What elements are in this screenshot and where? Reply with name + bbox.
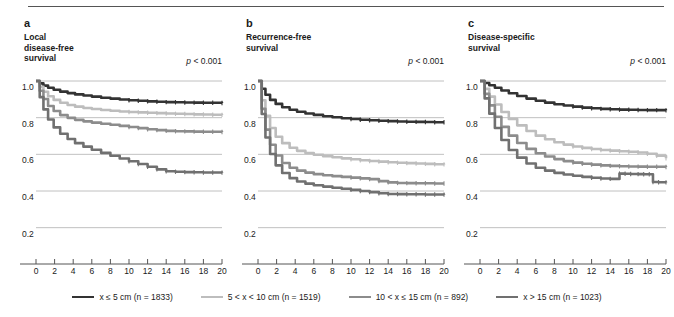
svg-text:6: 6 bbox=[89, 266, 94, 276]
svg-text:0.8: 0.8 bbox=[244, 119, 256, 129]
svg-text:0.6: 0.6 bbox=[244, 155, 256, 165]
svg-text:1.0: 1.0 bbox=[466, 82, 478, 92]
svg-text:Time (years): Time (years) bbox=[104, 279, 154, 280]
svg-text:18: 18 bbox=[643, 266, 653, 276]
legend-item-label: x > 15 cm (n = 1023) bbox=[523, 292, 601, 302]
legend-item-label: 5 < x < 10 cm (n = 1519) bbox=[228, 292, 321, 302]
svg-text:2: 2 bbox=[274, 266, 279, 276]
legend-swatch-icon bbox=[496, 296, 518, 299]
svg-text:0.4: 0.4 bbox=[244, 192, 256, 202]
svg-text:4: 4 bbox=[515, 266, 520, 276]
svg-text:10: 10 bbox=[568, 266, 578, 276]
svg-text:0.4: 0.4 bbox=[22, 192, 34, 202]
svg-text:0.4: 0.4 bbox=[466, 192, 478, 202]
svg-text:10: 10 bbox=[124, 266, 134, 276]
svg-text:2: 2 bbox=[496, 266, 501, 276]
svg-text:14: 14 bbox=[383, 266, 393, 276]
svg-text:8: 8 bbox=[330, 266, 335, 276]
top-divider bbox=[28, 6, 664, 7]
panel-a: a Local disease-free survival p < 0.001 … bbox=[6, 18, 228, 280]
panel-a-plot: 0.20.40.60.81.002468101214161820Time (ye… bbox=[6, 18, 228, 280]
legend-item-label: x ≤ 5 cm (n = 1833) bbox=[99, 292, 172, 302]
svg-text:8: 8 bbox=[552, 266, 557, 276]
legend-item-label: 10 < x ≤ 15 cm (n = 892) bbox=[376, 292, 469, 302]
series-legend: x ≤ 5 cm (n = 1833) 5 < x < 10 cm (n = 1… bbox=[0, 286, 674, 308]
panel-c: c Disease-specific survival p < 0.001 0.… bbox=[450, 18, 672, 280]
svg-text:1.0: 1.0 bbox=[244, 82, 256, 92]
svg-text:16: 16 bbox=[180, 266, 190, 276]
svg-text:Time (years): Time (years) bbox=[326, 279, 376, 280]
svg-text:0.6: 0.6 bbox=[22, 155, 34, 165]
svg-text:0: 0 bbox=[34, 266, 39, 276]
svg-text:6: 6 bbox=[533, 266, 538, 276]
svg-text:16: 16 bbox=[624, 266, 634, 276]
panel-b: b Recurrence-free survival p < 0.001 0.2… bbox=[228, 18, 450, 280]
legend-item: x > 15 cm (n = 1023) bbox=[496, 292, 601, 302]
svg-text:0.2: 0.2 bbox=[22, 229, 34, 239]
svg-text:12: 12 bbox=[587, 266, 597, 276]
svg-text:4: 4 bbox=[293, 266, 298, 276]
svg-text:8: 8 bbox=[108, 266, 113, 276]
legend-item: 10 < x ≤ 15 cm (n = 892) bbox=[349, 292, 469, 302]
svg-text:12: 12 bbox=[143, 266, 153, 276]
svg-text:18: 18 bbox=[421, 266, 431, 276]
svg-text:20: 20 bbox=[217, 266, 227, 276]
legend-item: x ≤ 5 cm (n = 1833) bbox=[72, 292, 172, 302]
panel-b-plot: 0.20.40.60.81.002468101214161820Time (ye… bbox=[228, 18, 450, 280]
svg-text:0.2: 0.2 bbox=[244, 229, 256, 239]
svg-text:0.8: 0.8 bbox=[22, 119, 34, 129]
svg-text:14: 14 bbox=[161, 266, 171, 276]
legend-swatch-icon bbox=[349, 296, 371, 299]
svg-text:0.8: 0.8 bbox=[466, 119, 478, 129]
svg-text:14: 14 bbox=[605, 266, 615, 276]
svg-text:10: 10 bbox=[346, 266, 356, 276]
legend-item: 5 < x < 10 cm (n = 1519) bbox=[201, 292, 321, 302]
svg-text:20: 20 bbox=[439, 266, 449, 276]
panel-c-plot: 0.20.40.60.81.002468101214161820Time (ye… bbox=[450, 18, 672, 280]
legend-swatch-icon bbox=[201, 296, 223, 299]
svg-text:16: 16 bbox=[402, 266, 412, 276]
svg-text:4: 4 bbox=[71, 266, 76, 276]
svg-text:0: 0 bbox=[256, 266, 261, 276]
svg-text:0.2: 0.2 bbox=[466, 229, 478, 239]
svg-text:20: 20 bbox=[661, 266, 671, 276]
legend-swatch-icon bbox=[72, 296, 94, 299]
svg-text:12: 12 bbox=[365, 266, 375, 276]
svg-text:18: 18 bbox=[199, 266, 209, 276]
svg-text:0.6: 0.6 bbox=[466, 155, 478, 165]
kaplan-meier-figure: a Local disease-free survival p < 0.001 … bbox=[0, 0, 674, 317]
svg-text:Time (years): Time (years) bbox=[548, 279, 598, 280]
svg-text:2: 2 bbox=[52, 266, 57, 276]
svg-text:0: 0 bbox=[478, 266, 483, 276]
svg-text:6: 6 bbox=[311, 266, 316, 276]
svg-text:1.0: 1.0 bbox=[22, 82, 34, 92]
